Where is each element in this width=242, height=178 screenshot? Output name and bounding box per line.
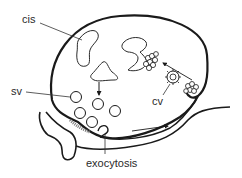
coated-pit [184, 82, 199, 94]
coated-vesicle [165, 69, 181, 85]
leader-sv [26, 92, 70, 97]
label-sv: sv [11, 85, 23, 97]
coated-vesicle-cluster-cisterna [143, 52, 158, 71]
leader-cv [163, 84, 170, 95]
cisterna-left [77, 31, 99, 67]
cisterna-right [122, 38, 147, 71]
vesicle-recycling-diagram: cis sv cv exocytosis [0, 0, 242, 178]
label-exocytosis: exocytosis [86, 157, 138, 169]
terminal-membrane [51, 15, 207, 138]
label-cv: cv [152, 95, 164, 107]
label-cis: cis [22, 13, 36, 25]
cisterna-center [91, 62, 118, 81]
exocytosis-profile [98, 126, 108, 136]
leader-cis [40, 23, 82, 40]
arrow-along-membrane [132, 126, 168, 131]
